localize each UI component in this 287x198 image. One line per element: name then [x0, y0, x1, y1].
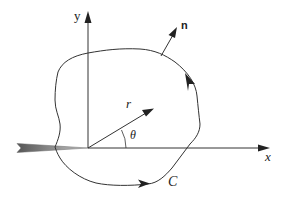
theta-arc	[122, 130, 127, 148]
contour-arrowhead-lower-icon	[138, 180, 150, 189]
contour-c	[55, 49, 200, 188]
x-axis-label: x	[265, 150, 271, 163]
crack-wedge	[17, 144, 88, 153]
normal-arrowhead-icon	[169, 27, 178, 38]
contour-label: C	[168, 175, 177, 189]
normal-label: n	[181, 20, 188, 31]
crack-contour-diagram: y x n r θ C	[0, 0, 287, 198]
contour-arrowhead-upper-icon	[185, 73, 195, 91]
y-axis-label: y	[74, 9, 81, 22]
x-axis	[88, 145, 270, 152]
radius-arrowhead-icon	[142, 109, 154, 117]
y-axis	[85, 11, 92, 148]
normal-vector	[161, 27, 177, 56]
radius-vector	[88, 109, 154, 149]
theta-label: θ	[130, 129, 136, 141]
y-axis-arrowhead-icon	[85, 11, 92, 23]
diagram-graphic	[0, 0, 287, 198]
radius-label: r	[126, 97, 131, 110]
